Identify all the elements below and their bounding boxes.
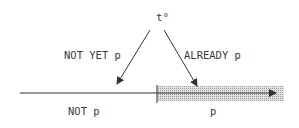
not-yet-arrow	[117, 30, 150, 84]
reference-time-label: t°	[156, 12, 169, 23]
not-yet-label: NOT YET p	[64, 50, 121, 61]
not-p-label: NOT p	[68, 106, 100, 117]
already-label: ALREADY p	[184, 50, 241, 61]
timeline-diagram	[0, 0, 299, 128]
p-label: p	[210, 106, 216, 117]
